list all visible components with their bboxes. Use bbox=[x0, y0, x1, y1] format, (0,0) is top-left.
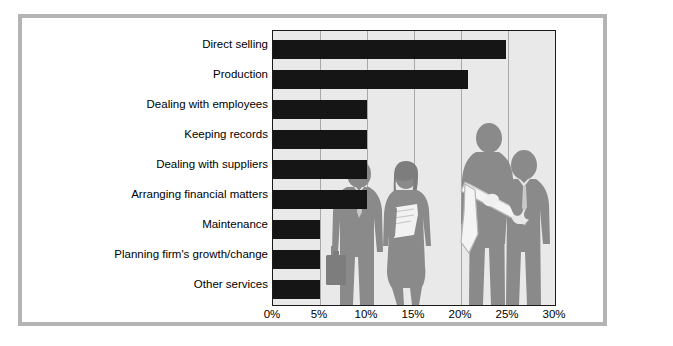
category-label: Arranging financial matters bbox=[40, 189, 268, 201]
bar-planning-firms-growth-change bbox=[273, 250, 320, 269]
x-tick-label: 20% bbox=[448, 309, 471, 321]
bar-dealing-with-suppliers bbox=[273, 160, 367, 179]
x-tick-label: 15% bbox=[401, 309, 424, 321]
bars bbox=[273, 31, 555, 305]
x-tick-label: 10% bbox=[354, 309, 377, 321]
category-label: Maintenance bbox=[40, 219, 268, 231]
bar-other-services bbox=[273, 280, 320, 299]
bar-maintenance bbox=[273, 220, 320, 239]
plot-area bbox=[272, 30, 556, 306]
bar-chart-figure: Direct selling Production Dealing with e… bbox=[0, 0, 673, 346]
category-label: Other services bbox=[40, 279, 268, 291]
x-tick-label: 30% bbox=[542, 309, 565, 321]
bar-arranging-financial-matters bbox=[273, 190, 367, 209]
category-axis-labels: Direct selling Production Dealing with e… bbox=[40, 30, 268, 306]
category-label: Dealing with employees bbox=[40, 99, 268, 111]
x-axis-tick-labels: 0% 5% 10% 15% 20% 25% 30% bbox=[272, 309, 556, 329]
bar-production bbox=[273, 70, 468, 89]
category-label: Production bbox=[40, 69, 268, 81]
category-label: Keeping records bbox=[40, 129, 268, 141]
x-tick-label: 25% bbox=[495, 309, 518, 321]
x-tick-label: 5% bbox=[311, 309, 328, 321]
bar-dealing-with-employees bbox=[273, 100, 367, 119]
bar-keeping-records bbox=[273, 130, 367, 149]
category-label: Planning firm's growth/change bbox=[40, 249, 268, 261]
bar-direct-selling bbox=[273, 40, 506, 59]
x-tick-label: 0% bbox=[264, 309, 281, 321]
category-label: Direct selling bbox=[40, 39, 268, 51]
category-label: Dealing with suppliers bbox=[40, 159, 268, 171]
